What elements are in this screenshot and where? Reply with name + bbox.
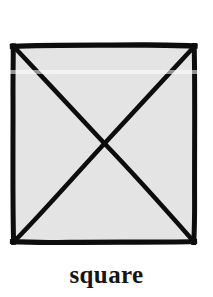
square-edge-left [13, 46, 14, 243]
caption-area: square [0, 252, 213, 297]
figure-page: square [0, 0, 213, 297]
square-edge-right [194, 46, 195, 243]
square-edge-top [13, 45, 196, 47]
square-edge-bottom [13, 242, 195, 243]
figure-caption: square [69, 262, 143, 287]
square-diagram [0, 0, 213, 252]
figure-image-area [0, 0, 213, 252]
diagonal-intersection-point [102, 141, 107, 146]
